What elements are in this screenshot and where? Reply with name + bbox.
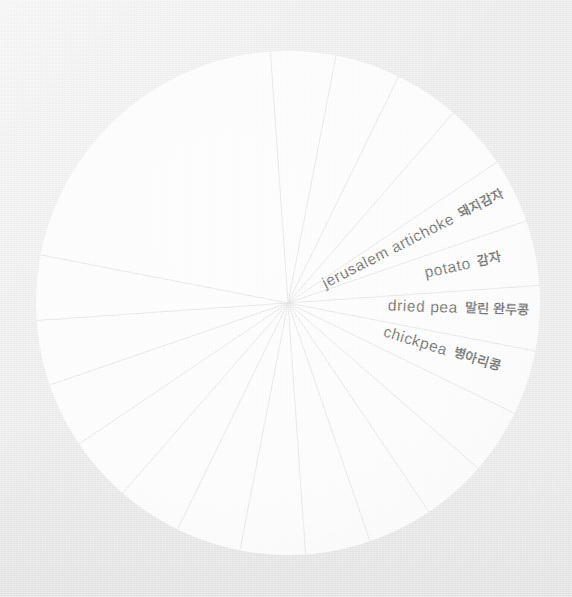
chart-canvas: jerusalem artichoke돼지감자potato감자dried pea… <box>0 0 572 597</box>
pie-label-en: dried pea <box>388 297 459 316</box>
pie-label-ko: 말린 완두콩 <box>465 301 530 318</box>
pie-chart: jerusalem artichoke돼지감자potato감자dried pea… <box>0 0 572 597</box>
